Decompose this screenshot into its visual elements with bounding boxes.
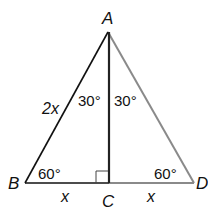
side-label-ab: 2x (41, 100, 60, 117)
right-angle-marker (96, 171, 108, 183)
vertex-label-b: B (8, 174, 19, 193)
side-label-cd: x (146, 188, 156, 205)
triangle-diagram: A B C D 30° 30° 60° 60° 2x x x (0, 0, 208, 214)
angle-label-a-left: 30° (78, 92, 101, 109)
angle-label-d: 60° (154, 165, 177, 182)
angle-label-a-right: 30° (114, 92, 137, 109)
vertex-label-a: A (101, 9, 113, 28)
vertex-label-d: D (196, 174, 208, 193)
angle-label-b: 60° (38, 165, 61, 182)
vertex-label-c: C (102, 192, 115, 211)
side-label-bc: x (60, 188, 70, 205)
